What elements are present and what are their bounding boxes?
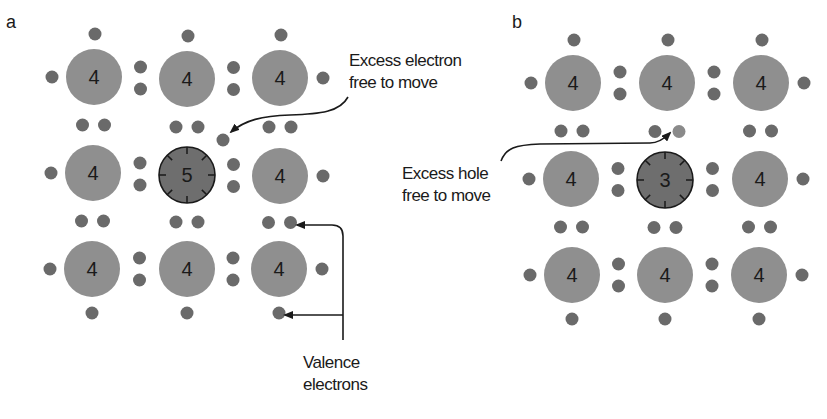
valence-electron bbox=[524, 269, 537, 282]
valence-electrons-label-line1: Valence bbox=[303, 352, 367, 374]
atom-valence-number: 4 bbox=[565, 168, 576, 190]
valence-electron bbox=[649, 125, 662, 138]
silicon-atom: 4 bbox=[731, 247, 787, 303]
valence-electron bbox=[764, 221, 777, 234]
valence-electron bbox=[97, 215, 110, 228]
silicon-atom: 4 bbox=[159, 51, 215, 107]
valence-electron bbox=[263, 121, 276, 134]
valence-electron bbox=[285, 121, 298, 134]
valence-electron bbox=[284, 216, 297, 229]
valence-electron bbox=[227, 252, 240, 265]
impurity-atom-3: 3 bbox=[637, 152, 693, 208]
valence-electron bbox=[86, 307, 99, 320]
valence-electrons-label: Valence electrons bbox=[303, 352, 367, 396]
valence-electron bbox=[133, 252, 146, 265]
silicon-atom: 4 bbox=[637, 247, 693, 303]
valence-electron bbox=[612, 184, 625, 197]
valence-electron bbox=[134, 83, 147, 96]
valence-electron bbox=[706, 184, 719, 197]
valence-electron bbox=[743, 125, 756, 138]
valence-electron bbox=[75, 215, 88, 228]
valence-electron bbox=[797, 173, 810, 186]
valence-electron bbox=[192, 216, 205, 229]
valence-electron bbox=[706, 280, 719, 293]
atom-valence-number: 3 bbox=[659, 169, 670, 191]
atom-valence-number: 4 bbox=[754, 168, 765, 190]
valence-electron bbox=[275, 29, 288, 42]
silicon-atom: 4 bbox=[65, 145, 121, 201]
valence-electron bbox=[227, 158, 240, 171]
atom-valence-number: 4 bbox=[567, 72, 578, 94]
excess-electron-label-line1: Excess electron bbox=[349, 50, 462, 72]
valence-electron bbox=[659, 313, 672, 326]
valence-electron bbox=[670, 221, 683, 234]
valence-electron bbox=[273, 307, 286, 320]
valence-electron bbox=[46, 71, 59, 84]
valence-electron bbox=[662, 34, 675, 47]
valence-electron bbox=[765, 125, 778, 138]
valence-electron bbox=[227, 274, 240, 287]
atom-valence-number: 4 bbox=[181, 68, 192, 90]
valence-electron bbox=[576, 221, 589, 234]
atom-valence-number: 4 bbox=[88, 66, 99, 88]
valence-electron bbox=[76, 119, 89, 132]
valence-electron bbox=[170, 121, 183, 134]
valence-electron bbox=[227, 83, 240, 96]
atom-valence-number: 5 bbox=[181, 164, 192, 186]
valence-electron bbox=[134, 61, 147, 74]
excess-electron-label-line2: free to move bbox=[349, 72, 462, 94]
valence-electron bbox=[706, 162, 719, 175]
silicon-atom: 4 bbox=[545, 55, 601, 111]
atom-valence-number: 4 bbox=[181, 258, 192, 280]
impurity-atom-5: 5 bbox=[159, 147, 215, 203]
valence-electron bbox=[134, 157, 147, 170]
atom-valence-number: 4 bbox=[274, 67, 285, 89]
valence-electron bbox=[614, 66, 627, 79]
atom-valence-number: 4 bbox=[86, 258, 97, 280]
valence-electron bbox=[227, 61, 240, 74]
hole-position bbox=[673, 125, 686, 138]
valence-electron bbox=[566, 313, 579, 326]
valence-electron bbox=[317, 170, 330, 183]
excess-hole-label-line2: free to move bbox=[402, 185, 491, 207]
silicon-atom: 4 bbox=[733, 55, 789, 111]
valence-electron bbox=[798, 77, 811, 90]
atom-valence-number: 4 bbox=[566, 264, 577, 286]
excess-hole-label-line1: Excess hole bbox=[402, 163, 491, 185]
panel-b-label: b bbox=[512, 12, 522, 33]
valence-electron bbox=[262, 216, 275, 229]
valence-electron bbox=[227, 180, 240, 193]
silicon-atom: 4 bbox=[544, 247, 600, 303]
valence-electron bbox=[614, 88, 627, 101]
valence-electron bbox=[45, 167, 58, 180]
excess-electron-label: Excess electron free to move bbox=[349, 50, 462, 94]
valence-electron bbox=[525, 77, 538, 90]
valence-electron bbox=[708, 66, 721, 79]
valence-electron bbox=[577, 125, 590, 138]
valence-electron bbox=[742, 221, 755, 234]
atom-valence-number: 4 bbox=[755, 72, 766, 94]
panel-a-label: a bbox=[6, 12, 16, 33]
valence-electron bbox=[317, 72, 330, 85]
panel-b-p-type-lattice: 444434444 bbox=[523, 34, 811, 326]
valence-electron bbox=[648, 221, 661, 234]
valence-electron bbox=[555, 125, 568, 138]
silicon-atom: 4 bbox=[252, 50, 308, 106]
valence-electron bbox=[796, 269, 809, 282]
valence-electron bbox=[612, 258, 625, 271]
valence-electron bbox=[134, 179, 147, 192]
atom-valence-number: 4 bbox=[659, 264, 670, 286]
silicon-atom: 4 bbox=[543, 151, 599, 207]
valence-electron bbox=[44, 263, 57, 276]
valence-electron bbox=[753, 313, 766, 326]
silicon-atom: 4 bbox=[639, 55, 695, 111]
valence-electron bbox=[182, 30, 195, 43]
excess-hole-label: Excess hole free to move bbox=[402, 163, 491, 207]
valence-electron bbox=[181, 307, 194, 320]
valence-electron bbox=[612, 280, 625, 293]
silicon-atom: 4 bbox=[252, 148, 308, 204]
silicon-atom: 4 bbox=[64, 241, 120, 297]
atom-valence-number: 4 bbox=[273, 258, 284, 280]
silicon-atom: 4 bbox=[732, 151, 788, 207]
atom-valence-number: 4 bbox=[661, 72, 672, 94]
